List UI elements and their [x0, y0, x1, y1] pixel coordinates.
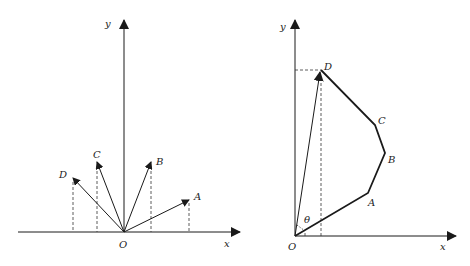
left-origin-label: O: [119, 239, 127, 250]
right-label-C: C: [378, 115, 386, 126]
left-dashed-projections: [73, 166, 189, 232]
vector-OD: [73, 178, 124, 232]
right-x-label: x: [440, 241, 446, 252]
right-figure: A B C D θ O x y: [279, 20, 456, 252]
vector-OB: [124, 162, 151, 232]
right-label-A: A: [367, 197, 375, 208]
left-label-B: B: [155, 156, 163, 167]
right-label-B: B: [387, 154, 395, 165]
vector-OC: [97, 162, 124, 232]
left-label-A: A: [193, 191, 201, 202]
theta-label: θ: [304, 214, 310, 225]
right-y-label: y: [279, 21, 286, 32]
vector-OA: [124, 200, 189, 232]
left-figure: A B C D O x y: [18, 18, 240, 250]
right-origin-label: O: [288, 241, 296, 252]
left-y-label: y: [104, 18, 111, 29]
left-label-D: D: [58, 169, 67, 180]
polygon-path-OABCD: [295, 70, 385, 236]
vector-diagrams: A B C D O x y A B C D θ O x y: [0, 0, 470, 266]
right-label-D: D: [323, 61, 332, 72]
vector-OD-resultant: [295, 72, 320, 236]
left-label-C: C: [93, 149, 101, 160]
left-x-label: x: [224, 238, 230, 249]
left-vectors: [73, 162, 189, 232]
